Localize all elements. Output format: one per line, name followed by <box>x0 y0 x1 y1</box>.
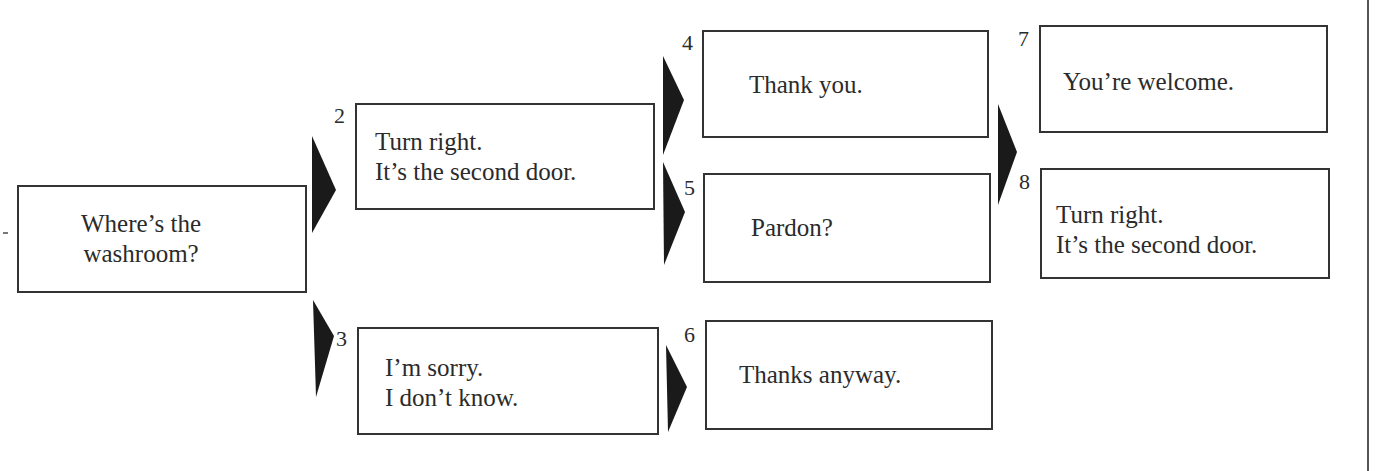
arrow-3-to-6-icon <box>665 345 689 433</box>
arrow-4-5-to-7-8-icon <box>997 104 1019 206</box>
node-4-text: Thank you. <box>749 70 863 100</box>
node-4-number: 4 <box>682 30 693 56</box>
node-8-number: 8 <box>1019 169 1030 195</box>
node-3-box: I’m sorry. I don’t know. <box>357 327 659 435</box>
arrow-1-to-2-icon <box>311 136 337 234</box>
node-5-text: Pardon? <box>751 213 833 243</box>
node-8-text: Turn right. It’s the second door. <box>1056 200 1257 260</box>
node-7-number: 7 <box>1018 26 1029 52</box>
node-2-box: Turn right. It’s the second door. <box>355 103 655 210</box>
node-6-box: Thanks anyway. <box>705 320 993 430</box>
node-8-box: Turn right. It’s the second door. <box>1040 168 1330 279</box>
arrow-1-to-3-icon <box>312 300 336 398</box>
node-2-number: 2 <box>334 103 345 129</box>
arrow-2-to-4-icon <box>662 56 686 156</box>
node-3-text: I’m sorry. I don’t know. <box>385 353 518 413</box>
left-edge-mark <box>3 232 8 234</box>
node-2-text: Turn right. It’s the second door. <box>375 127 576 187</box>
arrow-2-to-5-icon <box>662 162 686 266</box>
node-1-text: Where’s the washroom? <box>81 209 201 269</box>
node-3-number: 3 <box>336 326 347 352</box>
node-4-box: Thank you. <box>702 30 989 138</box>
node-6-text: Thanks anyway. <box>739 360 901 390</box>
node-7-text: You’re welcome. <box>1063 67 1234 97</box>
node-1-box: Where’s the washroom? <box>17 185 307 293</box>
node-5-box: Pardon? <box>703 173 991 283</box>
page-edge-rule <box>1367 0 1369 471</box>
node-7-box: You’re welcome. <box>1039 25 1328 133</box>
